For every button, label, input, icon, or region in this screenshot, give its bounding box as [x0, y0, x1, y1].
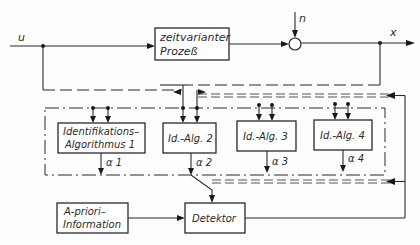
alpha-1-label: α 1	[106, 157, 122, 168]
id-alg-4-block: Id.-Alg. 4 α 4	[314, 102, 372, 172]
a-priori-label-line2: Information	[63, 219, 121, 230]
output-label-x: x	[389, 26, 397, 39]
id-alg-1-block: Identifikations– Algorithmus 1 α 1	[58, 106, 145, 175]
arrow-icon	[173, 89, 181, 95]
arrow-icon	[209, 195, 215, 203]
a-priori-label-line1: A-priori–	[63, 206, 106, 217]
arrow-icon	[386, 92, 395, 99]
a-priori-block: A-priori– Information	[57, 203, 128, 233]
arrow-icon	[177, 215, 185, 221]
block-diagram: u zeitvarianter Prozeß n x	[0, 0, 420, 245]
upper-parameter-bus	[198, 92, 405, 99]
id-alg-3-block: Id.-Alg. 3 α 3	[237, 103, 296, 173]
id-alg-2-label: Id.-Alg. 2	[168, 133, 213, 144]
summing-junction: n	[289, 12, 306, 50]
id-alg-1-label-line2: Algorithmus 1	[64, 139, 135, 150]
id-alg-2-block: Id.-Alg. 2 α 2	[163, 106, 216, 175]
output-signal-path: x	[301, 26, 415, 46]
arrow-icon	[292, 30, 298, 38]
detektor-block: Detektor	[185, 203, 245, 233]
alpha-3-label: α 3	[272, 156, 288, 167]
id-alg-4-label: Id.-Alg. 4	[320, 130, 365, 141]
process-label-line1: zeitvarianter	[159, 31, 232, 44]
process-label-line2: Prozeß	[160, 45, 197, 58]
input-signal-path: u	[10, 31, 155, 49]
id-alg-1-label-line1: Identifikations–	[63, 126, 139, 137]
input-label-u: u	[18, 31, 25, 44]
alpha-4-label: α 4	[348, 153, 364, 164]
arrow-icon	[281, 41, 289, 47]
noise-label-n: n	[299, 12, 306, 25]
process-block: zeitvarianter Prozeß	[155, 28, 232, 60]
arrow-icon	[147, 43, 155, 49]
detektor-label: Detektor	[192, 213, 237, 224]
alpha-2-label: α 2	[196, 157, 212, 168]
id-alg-3-label: Id.-Alg. 3	[243, 131, 288, 142]
lower-parameter-bus	[212, 178, 405, 185]
arrow-icon	[406, 40, 415, 46]
